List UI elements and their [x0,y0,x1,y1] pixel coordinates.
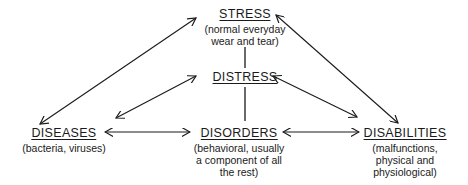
node-diseases-title: DISEASES [32,127,97,140]
node-disorders-subtitle-2: a component of all [194,154,284,166]
edge-distress-disabilities [273,76,357,117]
node-stress-title: STRESS [219,8,271,21]
node-distress: DISTRESS [213,70,278,86]
node-stress-subtitle-2: wear and tear) [204,35,285,47]
node-diseases: DISEASES (bacteria, viruses) [22,126,105,154]
node-disabilities: DISABILITIES (malfunctions, physical and… [364,126,447,178]
edge-stress-diseases [40,18,196,124]
node-disorders: DISORDERS (behavioral, usually a compone… [194,126,284,178]
edge-distress-diseases [116,76,196,118]
node-diseases-subtitle-1: (bacteria, viruses) [22,142,105,154]
node-disabilities-subtitle-1: (malfunctions, [364,142,447,154]
node-disorders-title: DISORDERS [200,127,277,140]
node-disabilities-title: DISABILITIES [364,127,447,140]
node-disabilities-subtitle-2: physical and [364,154,447,166]
node-stress-subtitle-1: (normal everyday [204,23,285,35]
node-stress: STRESS (normal everyday wear and tear) [204,7,285,47]
node-disorders-subtitle-3: the rest) [194,166,284,178]
node-distress-title: DISTRESS [213,71,278,84]
node-disorders-subtitle-1: (behavioral, usually [194,142,284,154]
node-disabilities-subtitle-3: physiological) [364,166,447,178]
